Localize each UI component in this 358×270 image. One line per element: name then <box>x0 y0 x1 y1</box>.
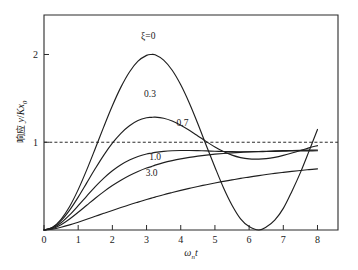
curve-label-zeta_3_0: 3.0 <box>146 168 158 178</box>
curve-label-zeta_0_7: 0.7 <box>177 118 189 128</box>
curve-label-zeta_0_3: 0.3 <box>144 89 156 99</box>
x-tick-label: 7 <box>281 234 286 245</box>
curve-label-zeta_1_0: 1.0 <box>149 152 161 162</box>
x-tick-label: 4 <box>178 234 183 245</box>
y-tick-label: 1 <box>33 137 38 148</box>
x-tick-label: 0 <box>42 234 47 245</box>
curve-label-zeta_0: ξ=0 <box>141 31 156 42</box>
second-order-step-response-chart: 012345678 12 ξ=00.30.71.03.0 ωnt 响应 y/Kx… <box>0 0 358 270</box>
figure-container: 012345678 12 ξ=00.30.71.03.0 ωnt 响应 y/Kx… <box>0 0 358 270</box>
x-tick-label: 8 <box>315 234 320 245</box>
x-tick-label: 2 <box>110 234 115 245</box>
x-tick-label: 5 <box>212 234 217 245</box>
x-tick-label: 3 <box>144 234 149 245</box>
y-tick-label: 2 <box>33 49 38 60</box>
x-tick-label: 1 <box>76 234 81 245</box>
x-tick-label: 6 <box>247 234 252 245</box>
